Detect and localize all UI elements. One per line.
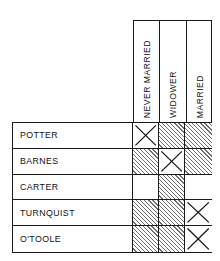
table-row: CARTER [13, 175, 211, 201]
column-header-label: WIDOWER [160, 71, 186, 118]
grid-cell-turnquist-never-married[interactable] [133, 200, 159, 225]
grid-body: POTTERBARNESCARTERTURNQUISTO'TOOLE [12, 122, 212, 253]
column-header-never-married-inner: NEVER MARRIED [134, 22, 160, 118]
column-header-widower: WIDOWER [160, 21, 186, 122]
grid-cell-carter-widower[interactable] [159, 175, 185, 200]
grid-cell-carter-married[interactable] [185, 175, 211, 200]
column-header-label: NEVER MARRIED [134, 40, 160, 118]
x-mark-icon [185, 200, 211, 225]
row-label-potter: POTTER [13, 123, 133, 148]
grid-cell-otoole-widower[interactable] [159, 226, 185, 252]
table-row: BARNES [13, 149, 211, 175]
grid-cell-barnes-never-married[interactable] [133, 149, 159, 174]
grid-cell-otoole-never-married[interactable] [133, 226, 159, 252]
column-header-widower-inner: WIDOWER [160, 22, 186, 118]
row-label-barnes: BARNES [13, 149, 133, 174]
table-row: O'TOOLE [13, 226, 211, 252]
grid-cell-potter-married[interactable] [185, 123, 211, 148]
grid-cell-potter-never-married[interactable] [133, 123, 159, 148]
row-label-turnquist: TURNQUIST [13, 200, 133, 225]
elimination-grid-figure: NEVER MARRIED WIDOWER MARRIED POTTERBARN… [0, 0, 220, 261]
row-label-carter: CARTER [13, 175, 133, 200]
grid-cell-barnes-married[interactable] [185, 149, 211, 174]
column-header-married-inner: MARRIED [187, 22, 213, 118]
grid-cell-barnes-widower[interactable] [159, 149, 185, 174]
grid-cell-potter-widower[interactable] [159, 123, 185, 148]
grid-cell-otoole-married[interactable] [185, 226, 211, 252]
x-mark-icon [159, 149, 184, 174]
row-label-otoole: O'TOOLE [13, 226, 133, 252]
x-mark-icon [185, 226, 211, 252]
table-row: TURNQUIST [13, 200, 211, 226]
grid-cell-carter-never-married[interactable] [133, 175, 159, 200]
x-mark-icon [133, 123, 158, 148]
column-header-label: MARRIED [187, 75, 213, 118]
column-header-never-married: NEVER MARRIED [134, 21, 160, 122]
column-header-married: MARRIED [187, 21, 213, 122]
grid-cell-turnquist-widower[interactable] [159, 200, 185, 225]
grid-cell-turnquist-married[interactable] [185, 200, 211, 225]
table-row: POTTER [13, 123, 211, 149]
column-header-band: NEVER MARRIED WIDOWER MARRIED [133, 20, 212, 122]
